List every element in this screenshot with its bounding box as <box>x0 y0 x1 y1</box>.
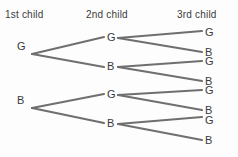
edge-n5-n11 <box>118 90 202 95</box>
edge-n6-n13 <box>118 117 202 124</box>
tree-node-level2-2: B <box>107 61 114 72</box>
edge-n3-n7 <box>118 31 202 38</box>
edge-n2-n5 <box>32 94 104 108</box>
edge-n1-n4 <box>32 54 104 67</box>
tree-node-level2-3: G <box>107 89 116 100</box>
edge-n3-n8 <box>118 38 202 52</box>
tree-node-level3-3: G <box>205 56 214 67</box>
tree-node-level2-1: G <box>107 32 116 43</box>
column-header-2nd-child: 2nd child <box>86 9 128 21</box>
edge-n4-n9 <box>118 61 202 67</box>
column-header-1st-child: 1st child <box>5 9 44 21</box>
tree-diagram-canvas: 1st child 2nd child 3rd child G B G B G … <box>0 0 238 157</box>
edge-n1-n3 <box>32 37 104 54</box>
tree-node-level3-8: B <box>205 135 212 146</box>
edge-n2-n6 <box>32 108 104 123</box>
edge-n4-n10 <box>118 67 202 81</box>
edge-n6-n14 <box>118 124 202 140</box>
tree-node-level3-7: G <box>205 115 214 126</box>
column-header-3rd-child: 3rd child <box>177 9 217 21</box>
tree-node-level1-1: G <box>17 41 26 52</box>
tree-node-level3-1: G <box>205 27 214 38</box>
tree-node-level1-2: B <box>17 95 24 106</box>
tree-node-level3-5: G <box>205 85 214 96</box>
tree-edges-layer <box>0 0 238 157</box>
tree-node-level2-4: B <box>107 118 114 129</box>
edge-n5-n12 <box>118 95 202 110</box>
